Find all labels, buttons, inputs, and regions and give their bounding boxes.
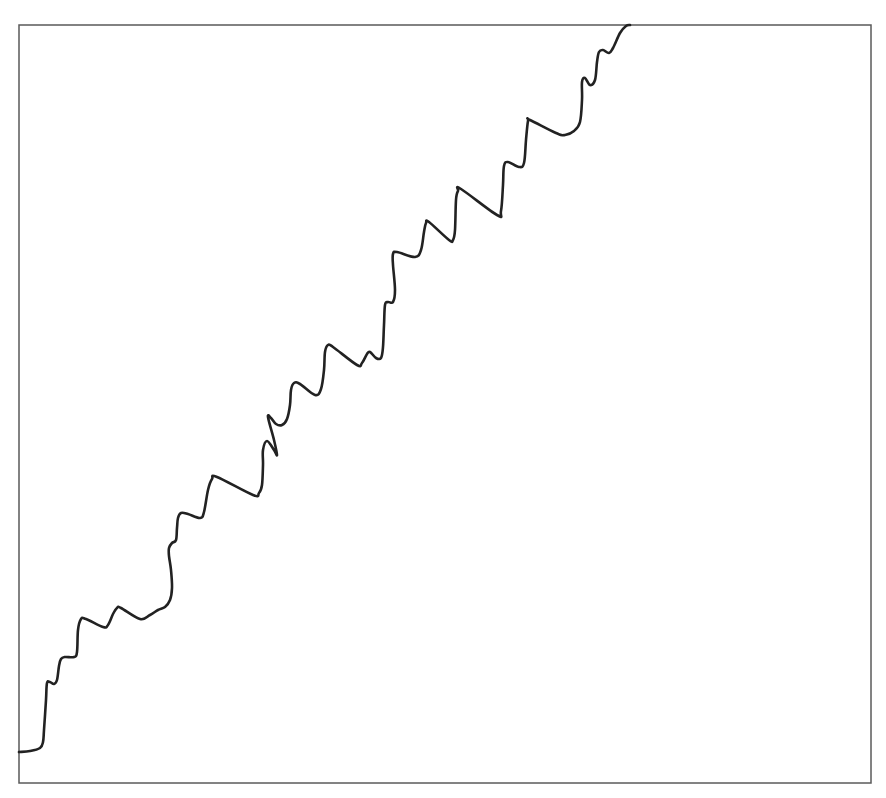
plot-frame	[19, 25, 871, 783]
line-chart	[0, 0, 886, 798]
data-line-series-1	[19, 25, 630, 752]
